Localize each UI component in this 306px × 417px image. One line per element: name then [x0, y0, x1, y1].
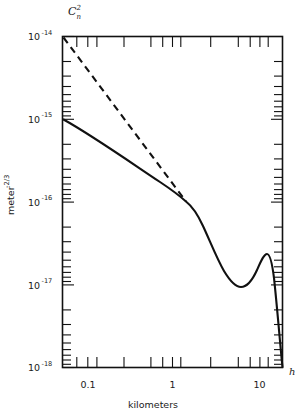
y-tick-label-5: 10 -18: [28, 360, 52, 374]
chart-figure: C 2 n 10 -14 10 -15 10 -16 10 -17 10: [0, 0, 306, 417]
x-tick-label-2: 1: [169, 379, 175, 390]
y-tick-label-2: 10 -15: [28, 111, 52, 125]
x-tick-label-1: 0.1: [80, 379, 95, 390]
y-axis-title-base: meter: [5, 186, 16, 215]
chart-title: C 2 n: [68, 4, 82, 21]
svg-text:10: 10: [28, 362, 40, 373]
y-tick-exponent-4: -17: [42, 277, 53, 285]
y-axis-title-superscript: -2/3: [3, 175, 11, 188]
x-axis-symbol: h: [289, 366, 295, 377]
chart-title-subscript: n: [77, 13, 82, 21]
x-tick-label-3: 10: [253, 379, 265, 390]
y-tick-label-1: 10 -14: [28, 29, 52, 43]
solid-curve: [64, 120, 283, 368]
y-tick-exponent-1: -14: [42, 29, 53, 37]
svg-text:10: 10: [28, 31, 40, 42]
svg-text:10: 10: [28, 280, 40, 291]
y-axis-tick-labels: 10 -14 10 -15 10 -16 10 -17 10 -18: [28, 29, 52, 374]
x-axis-tick-labels: 0.1 1 10: [80, 379, 265, 390]
plot-frame: [63, 37, 283, 368]
y-tick-exponent-2: -15: [42, 111, 53, 119]
chart-title-superscript: 2: [76, 4, 82, 12]
chart-svg: C 2 n 10 -14 10 -15 10 -16 10 -17 10: [0, 0, 306, 417]
right-axis-ticks: [271, 62, 283, 365]
x-axis-title: kilometers: [128, 399, 178, 410]
left-axis-ticks: [63, 37, 75, 368]
y-tick-exponent-5: -18: [42, 360, 53, 368]
bottom-axis-ticks: [77, 357, 268, 368]
top-axis-ticks: [77, 37, 268, 48]
svg-text:10: 10: [28, 197, 40, 208]
svg-text:10: 10: [28, 114, 40, 125]
y-tick-label-3: 10 -16: [28, 194, 52, 208]
y-tick-exponent-3: -16: [42, 194, 53, 202]
y-tick-label-4: 10 -17: [28, 277, 52, 291]
dashed-curve: [64, 38, 187, 202]
y-axis-title: meter -2/3: [3, 175, 16, 215]
